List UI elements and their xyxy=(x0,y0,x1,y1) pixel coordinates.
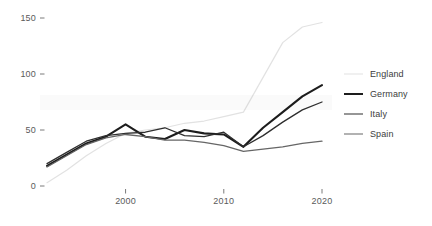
legend-swatch-spain-icon xyxy=(344,129,363,139)
axis-tick-marks xyxy=(40,18,322,194)
series-lines xyxy=(47,22,322,182)
x-tick-label: 2000 xyxy=(115,196,136,206)
legend-swatch-italy-icon xyxy=(344,109,363,119)
y-tick-label: 0 xyxy=(0,181,36,191)
y-tick-label: 150 xyxy=(0,13,36,23)
x-tick-label: 2010 xyxy=(213,196,234,206)
legend-label: Germany xyxy=(370,89,408,99)
legend-item-germany[interactable]: Germany xyxy=(344,84,432,104)
chart-legend: EnglandGermanyItalySpain xyxy=(344,64,432,144)
legend-swatch-germany-icon xyxy=(344,89,363,99)
line-chart: 050100150 200020102020 EnglandGermanyIta… xyxy=(0,0,432,226)
legend-item-england[interactable]: England xyxy=(344,64,432,84)
legend-item-italy[interactable]: Italy xyxy=(344,104,432,124)
y-tick-label: 50 xyxy=(0,125,36,135)
legend-label: Italy xyxy=(370,109,387,119)
legend-label: Spain xyxy=(370,129,394,139)
y-tick-label: 100 xyxy=(0,69,36,79)
legend-item-spain[interactable]: Spain xyxy=(344,124,432,144)
series-line-spain xyxy=(47,134,322,166)
x-tick-label: 2020 xyxy=(312,196,333,206)
legend-label: England xyxy=(370,69,404,79)
legend-swatch-england-icon xyxy=(344,69,363,79)
series-line-germany xyxy=(47,85,322,166)
series-line-england xyxy=(47,22,322,182)
